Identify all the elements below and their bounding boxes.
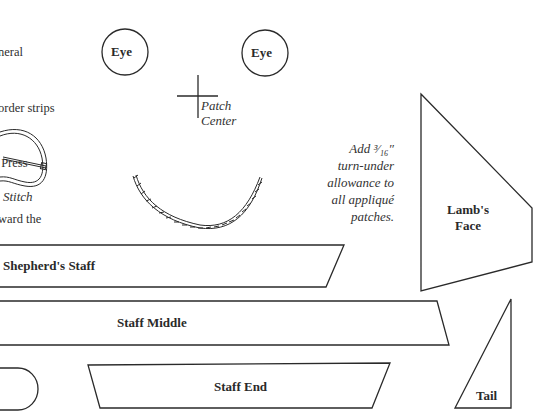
note-line: patches. [327,208,394,225]
shepherds-staff-label: Shepherd's Staff [3,258,95,274]
note-line: all appliqué [327,191,394,208]
eye-left-label: Eye [111,44,132,60]
stitch-illustration-icon [0,130,47,187]
lambs-face-label-2: Face [438,218,498,234]
rounded-piece [0,368,38,410]
staff-middle-label: Staff Middle [117,315,187,331]
patch-center-label-1: Patch [201,98,231,114]
allowance-note: Add ³⁄₁₆″ turn-under allowance to all ap… [327,140,394,225]
note-line: Add ³⁄₁₆″ [327,140,394,157]
lambs-face-piece [421,94,532,291]
lambs-face-label: Lamb's Face [438,202,498,234]
lambs-face-label-1: Lamb's [438,202,498,218]
mouth-stitch-icon [133,175,262,229]
note-line: turn-under [327,157,394,174]
patch-center-label-2: Center [201,113,236,129]
stitch-label: Stitch [3,189,33,205]
staff-end-label: Staff End [214,379,267,395]
staff-middle-piece [0,301,449,345]
eye-right-label: Eye [251,45,272,61]
tail-label: Tail [476,388,497,404]
note-line: allowance to [327,174,394,191]
